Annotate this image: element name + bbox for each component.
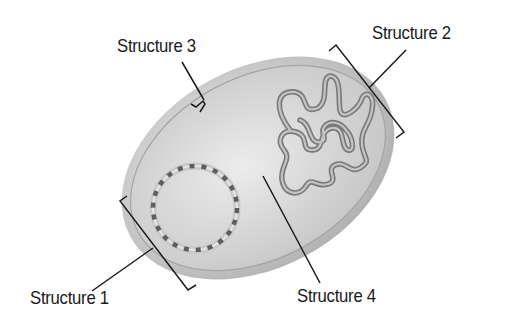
structure-1-label: Structure 1 — [30, 287, 109, 309]
structure-1-leader — [92, 248, 153, 291]
cell-diagram — [0, 0, 507, 328]
structure-2-label: Structure 2 — [372, 22, 451, 44]
structure-3-label: Structure 3 — [117, 35, 196, 57]
structure-2-leader — [369, 50, 406, 88]
cell-body — [83, 12, 433, 325]
structure-4-label: Structure 4 — [297, 285, 376, 307]
